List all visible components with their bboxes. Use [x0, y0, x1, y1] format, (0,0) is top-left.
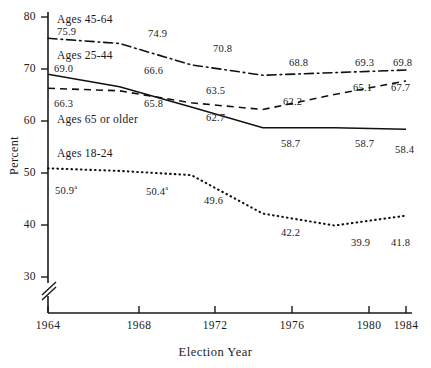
- data-label-45-64-1964: 75.9: [57, 27, 76, 38]
- data-label-18-24-1964-value: 50.9: [55, 185, 74, 196]
- chart-canvas: 80 70 60 50 40 30 1964 1968 1972 1976 19…: [0, 0, 431, 368]
- data-label-18-24-1968: 50.4a: [146, 185, 168, 197]
- y-tick-label-80: 80: [8, 11, 36, 23]
- data-label-45-64-1980: 69.3: [355, 58, 374, 69]
- series-label-ages-25-44: Ages 25-44: [57, 50, 113, 62]
- data-label-45-64-1976: 68.8: [289, 58, 308, 69]
- x-tick-label-1984: 1984: [381, 320, 431, 332]
- data-label-18-24-1984: 41.8: [391, 238, 410, 249]
- data-label-45-64-1972: 70.8: [213, 44, 232, 55]
- data-label-18-24-1976: 42.2: [281, 228, 300, 239]
- data-label-18-24-1980: 39.9: [351, 238, 370, 249]
- data-label-65plus-1968: 65.8: [144, 99, 163, 110]
- x-tick-label-1972: 1972: [190, 320, 240, 332]
- footnote-marker-a-2: a: [165, 184, 168, 191]
- y-tick-label-70: 70: [8, 63, 36, 75]
- data-label-65plus-1984: 67.7: [391, 83, 410, 94]
- data-label-25-44-1976: 58.7: [281, 139, 300, 150]
- data-label-65plus-1980: 65.1: [353, 83, 372, 94]
- y-axis-title: Percent: [7, 121, 22, 191]
- series-label-ages-18-24: Ages 18-24: [57, 148, 113, 160]
- data-label-18-24-1964: 50.9a: [55, 184, 77, 196]
- series-label-ages-45-64: Ages 45-64: [57, 14, 113, 26]
- x-tick-label-1968: 1968: [114, 320, 164, 332]
- series-line-ages-18-24: [48, 168, 406, 225]
- data-label-25-44-1964: 69.0: [54, 64, 73, 75]
- footnote-marker-a: a: [74, 183, 77, 190]
- data-label-65plus-1972: 63.5: [206, 86, 225, 97]
- y-tick-label-30: 30: [8, 271, 36, 283]
- data-label-45-64-1984: 69.8: [393, 58, 412, 69]
- data-label-25-44-1984: 58.4: [395, 145, 414, 156]
- y-tick-label-40: 40: [8, 219, 36, 231]
- data-label-18-24-1968-value: 50.4: [146, 186, 165, 197]
- data-label-25-44-1968: 66.6: [144, 66, 163, 77]
- series-label-ages-65-or-older: Ages 65 or older: [57, 114, 138, 126]
- x-tick-label-1976: 1976: [267, 320, 317, 332]
- x-tick-label-1964: 1964: [23, 320, 73, 332]
- data-label-65plus-1976: 62.2: [283, 97, 302, 108]
- data-label-18-24-1972: 49.6: [204, 196, 223, 207]
- data-label-45-64-1968: 74.9: [148, 29, 167, 40]
- x-axis-title: Election Year: [0, 345, 431, 360]
- data-label-25-44-1980: 58.7: [355, 139, 374, 150]
- data-label-25-44-1972: 62.7: [206, 113, 225, 124]
- data-label-65plus-1964: 66.3: [54, 99, 73, 110]
